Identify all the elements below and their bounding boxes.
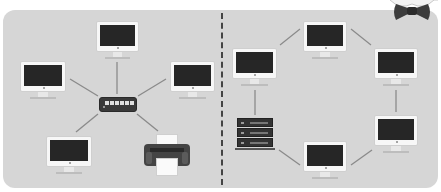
link-ring-rightbottom-bottom xyxy=(351,150,372,165)
monitor-icon xyxy=(232,48,277,88)
link-ring-left-top xyxy=(280,29,300,45)
monitor-icon xyxy=(374,115,418,155)
link-switch-bottom-monitor xyxy=(76,114,98,132)
panel-divider xyxy=(221,13,223,185)
monitor-icon xyxy=(46,136,92,176)
link-switch-left-monitor xyxy=(70,79,98,96)
monitor-icon xyxy=(96,21,139,61)
monitor-icon xyxy=(374,48,418,88)
monitor-icon xyxy=(170,61,215,101)
link-switch-right-monitor xyxy=(138,79,166,96)
link-ring-bottom-server xyxy=(279,150,300,165)
monitor-icon xyxy=(20,61,66,101)
printer-icon xyxy=(144,134,190,176)
server-rack-icon xyxy=(237,118,273,150)
link-switch-printer xyxy=(137,114,158,131)
bow-tie-icon xyxy=(386,0,438,22)
link-ring-top-right xyxy=(351,29,371,45)
monitor-icon xyxy=(303,21,347,61)
monitor-icon xyxy=(303,141,347,181)
network-switch-icon xyxy=(99,97,137,112)
